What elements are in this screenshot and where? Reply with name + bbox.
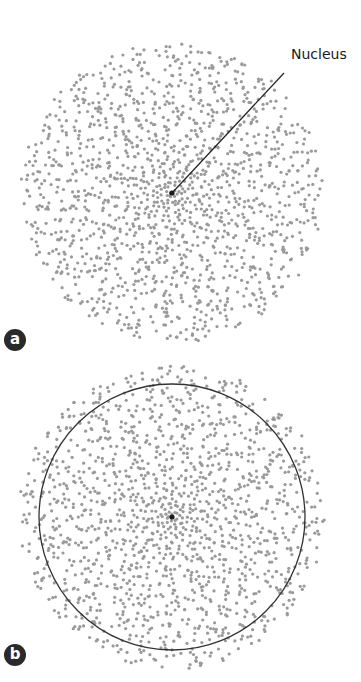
panel-b: b <box>0 360 361 682</box>
electron-cloud-b <box>0 360 361 682</box>
panel-b-badge: b <box>4 644 26 666</box>
nucleus-label: Nucleus <box>291 46 347 62</box>
nucleus-dot <box>169 514 174 519</box>
panel-a-badge: a <box>4 329 26 351</box>
nucleus-dot <box>169 190 174 195</box>
panel-a: Nucleus a <box>0 0 361 360</box>
